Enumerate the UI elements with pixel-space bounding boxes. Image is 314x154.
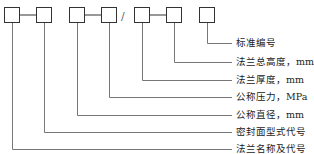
- leader-line: [175, 23, 233, 63]
- code-box-7: [200, 8, 215, 23]
- leader-line: [110, 23, 233, 98]
- code-box-6: [167, 8, 182, 23]
- designation-label: 标准编号: [236, 37, 276, 49]
- code-box-5: [135, 8, 150, 23]
- leader-line: [78, 23, 233, 116]
- code-box-1: [5, 8, 20, 23]
- designation-label: 法兰名称及代号: [236, 143, 306, 154]
- code-box-4: [102, 8, 117, 23]
- leader-line: [13, 23, 233, 150]
- leader-line: [143, 23, 233, 81]
- leader-line: [45, 23, 233, 133]
- separator-slash: /: [121, 10, 125, 23]
- designation-label: 公称直径，mm: [236, 109, 304, 121]
- designation-label: 公称压力，MPa: [236, 91, 307, 103]
- designation-label: 法兰厚度，mm: [236, 74, 304, 86]
- designation-label: 法兰总高度，mm: [236, 56, 314, 68]
- designation-label: 密封面型式代号: [236, 126, 306, 138]
- leader-line: [208, 23, 233, 44]
- code-box-3: [70, 8, 85, 23]
- code-box-2: [37, 8, 52, 23]
